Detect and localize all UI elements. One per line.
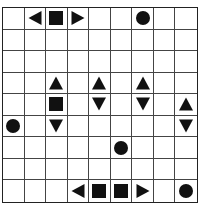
grid-cell[interactable]: [68, 116, 90, 138]
grid-cell[interactable]: [3, 94, 25, 116]
grid-cell[interactable]: [89, 159, 111, 181]
grid-cell[interactable]: [132, 73, 154, 95]
grid-cell[interactable]: [175, 137, 197, 159]
grid-cell[interactable]: [175, 8, 197, 30]
grid-cell[interactable]: [154, 180, 176, 202]
ship-end-up-icon: [179, 98, 193, 111]
grid-cell[interactable]: [3, 73, 25, 95]
grid-cell[interactable]: [111, 51, 133, 73]
grid-cell[interactable]: [132, 51, 154, 73]
grid-cell[interactable]: [132, 116, 154, 138]
grid-cell[interactable]: [132, 159, 154, 181]
grid-cell[interactable]: [68, 180, 90, 202]
grid-cell[interactable]: [175, 116, 197, 138]
grid-cell[interactable]: [3, 159, 25, 181]
grid-cell[interactable]: [46, 8, 68, 30]
grid-cell[interactable]: [68, 73, 90, 95]
grid-cell[interactable]: [175, 73, 197, 95]
grid-cell[interactable]: [3, 116, 25, 138]
ship-end-down-icon: [179, 120, 193, 133]
grid-cell[interactable]: [3, 8, 25, 30]
grid-cell[interactable]: [3, 30, 25, 52]
grid-cell[interactable]: [46, 137, 68, 159]
ship-end-right-icon: [136, 184, 149, 198]
ship-end-up-icon: [92, 76, 106, 89]
grid-cell[interactable]: [89, 94, 111, 116]
ship-end-left-icon: [71, 184, 84, 198]
grid-cell[interactable]: [25, 30, 47, 52]
grid-cell[interactable]: [132, 30, 154, 52]
grid-cell[interactable]: [154, 51, 176, 73]
grid-cell[interactable]: [68, 94, 90, 116]
grid-cell[interactable]: [3, 180, 25, 202]
grid-cell[interactable]: [3, 51, 25, 73]
grid-cell[interactable]: [175, 159, 197, 181]
grid-cell[interactable]: [46, 73, 68, 95]
grid-cell[interactable]: [25, 8, 47, 30]
grid-cell[interactable]: [154, 8, 176, 30]
ship-circle-icon: [179, 184, 193, 198]
grid-cell[interactable]: [111, 137, 133, 159]
grid-cell[interactable]: [89, 30, 111, 52]
grid-cell[interactable]: [175, 30, 197, 52]
grid-cell[interactable]: [68, 8, 90, 30]
grid-cell[interactable]: [46, 116, 68, 138]
grid-cell[interactable]: [46, 30, 68, 52]
ship-end-right-icon: [71, 11, 84, 25]
grid-cell[interactable]: [111, 8, 133, 30]
grid-cell[interactable]: [154, 30, 176, 52]
grid-cell[interactable]: [46, 159, 68, 181]
grid-cell[interactable]: [154, 159, 176, 181]
grid-cell[interactable]: [3, 137, 25, 159]
grid-cell[interactable]: [68, 137, 90, 159]
grid-cell[interactable]: [46, 180, 68, 202]
grid-cell[interactable]: [89, 8, 111, 30]
grid-cell[interactable]: [25, 137, 47, 159]
grid-cell[interactable]: [89, 73, 111, 95]
grid-cell[interactable]: [111, 116, 133, 138]
grid-cell[interactable]: [132, 8, 154, 30]
ship-end-down-icon: [49, 120, 63, 133]
ship-end-left-icon: [28, 11, 41, 25]
grid-cell[interactable]: [154, 137, 176, 159]
grid-cell[interactable]: [175, 94, 197, 116]
ship-end-down-icon: [92, 98, 106, 111]
grid-cell[interactable]: [154, 73, 176, 95]
grid-cell[interactable]: [89, 116, 111, 138]
ship-end-up-icon: [49, 76, 63, 89]
grid-cell[interactable]: [111, 180, 133, 202]
grid-cell[interactable]: [175, 180, 197, 202]
grid-cell[interactable]: [132, 180, 154, 202]
grid-cell[interactable]: [132, 137, 154, 159]
ship-end-down-icon: [136, 98, 150, 111]
grid-cell[interactable]: [89, 180, 111, 202]
grid-cell[interactable]: [25, 51, 47, 73]
ship-square-icon: [49, 11, 63, 25]
grid-cell[interactable]: [25, 159, 47, 181]
top-edge-mark: [2, 0, 16, 3]
grid-cell[interactable]: [68, 51, 90, 73]
grid-cell[interactable]: [154, 116, 176, 138]
grid-cell[interactable]: [154, 94, 176, 116]
grid-cell[interactable]: [46, 94, 68, 116]
ship-circle-icon: [114, 141, 128, 155]
grid-cell[interactable]: [25, 94, 47, 116]
grid-cell[interactable]: [89, 137, 111, 159]
grid-cell[interactable]: [132, 94, 154, 116]
grid-cell[interactable]: [89, 51, 111, 73]
grid-cell[interactable]: [25, 180, 47, 202]
ship-square-icon: [49, 97, 63, 111]
grid-cell[interactable]: [68, 30, 90, 52]
ship-square-icon: [92, 184, 106, 198]
grid-cell[interactable]: [111, 94, 133, 116]
grid-cell[interactable]: [25, 73, 47, 95]
grid-cell[interactable]: [111, 30, 133, 52]
grid-cell[interactable]: [46, 51, 68, 73]
grid-cell[interactable]: [25, 116, 47, 138]
grid-cell[interactable]: [111, 73, 133, 95]
grid-cell[interactable]: [175, 51, 197, 73]
puzzle-grid: [2, 7, 198, 203]
grid-cell[interactable]: [68, 159, 90, 181]
grid-cell[interactable]: [111, 159, 133, 181]
ship-square-icon: [114, 184, 128, 198]
